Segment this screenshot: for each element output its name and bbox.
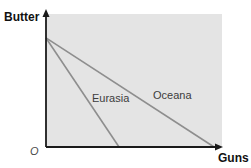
x-axis-label: Guns [218, 151, 249, 165]
series-label-oceana: Oceana [153, 89, 192, 101]
chart-canvas [0, 0, 251, 168]
y-axis-label: Butter [4, 10, 39, 24]
origin-label: O [30, 145, 39, 157]
ppf-chart: Butter Guns O Eurasia Oceana [0, 0, 251, 168]
series-label-eurasia: Eurasia [92, 92, 129, 104]
